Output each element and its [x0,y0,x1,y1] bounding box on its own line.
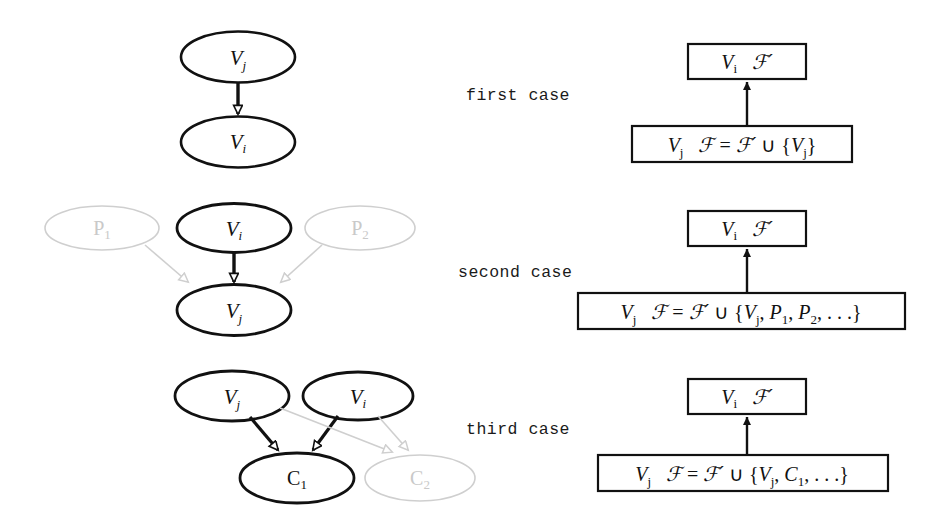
box-third-bottom-text: Vj ℱ = ℱ′ ∪ {Vj, C1, . . .} [635,462,849,489]
node-vi-case3-label: Vi [350,385,367,411]
case-label-third: third case [466,420,570,439]
case-second-graph: P1 Vi P2 Vj [45,204,415,336]
case-label-first: first case [466,86,570,105]
node-c1-case3-label: C1 [287,467,307,492]
node-p1-case2-label: P1 [93,217,111,242]
box-first-bottom-text: Vj ℱ = ℱ′ ∪ {Vj} [668,133,817,160]
case-third-boxes: Vi ℱ′ Vj ℱ = ℱ′ ∪ {Vj, C1, . . .} [598,379,888,491]
figure-canvas: Vj Vi P1 Vi P2 Vj Vj Vi C1 C2 first case [0,0,942,528]
box-second-bottom-text: Vj ℱ = ℱ′ ∪ {Vj, P1, P2, . . .} [620,300,861,327]
node-vj-case1-label: Vj [230,46,247,73]
edge-vj-to-c2-case3 [280,408,392,452]
node-c2-case3-label: C2 [410,467,430,492]
case-second-boxes: Vi ℱ′ Vj ℱ = ℱ′ ∪ {Vj, P1, P2, . . .} [578,211,905,329]
node-vj-case3-label: Vj [224,385,241,412]
box-second-top-text: Vi ℱ′ [721,217,773,243]
edge-vj-to-c1-case3 [250,417,278,450]
node-vj-case2-label: Vj [226,299,243,326]
node-vi-case1-label: Vi [230,130,247,156]
diagram-svg: Vj Vi P1 Vi P2 Vj Vj Vi C1 C2 first case [0,0,942,528]
case-first-boxes: Vi ℱ′ Vj ℱ = ℱ′ ∪ {Vj} [632,44,852,162]
case-third-graph: Vj Vi C1 C2 [175,371,475,503]
node-vi-case2-label: Vi [226,217,243,243]
node-p2-case2-label: P2 [351,217,369,242]
edge-vi-to-c2-case3 [378,416,408,450]
edge-p1-to-vj-case2 [145,245,188,282]
box-first-top-text: Vi ℱ′ [721,50,773,76]
edge-vi-to-c1-case3 [313,416,338,450]
case-label-second: second case [458,263,572,282]
edge-p2-to-vj-case2 [281,245,322,282]
box-third-top-text: Vi ℱ′ [721,385,773,411]
case-first-graph: Vj Vi [181,32,295,168]
